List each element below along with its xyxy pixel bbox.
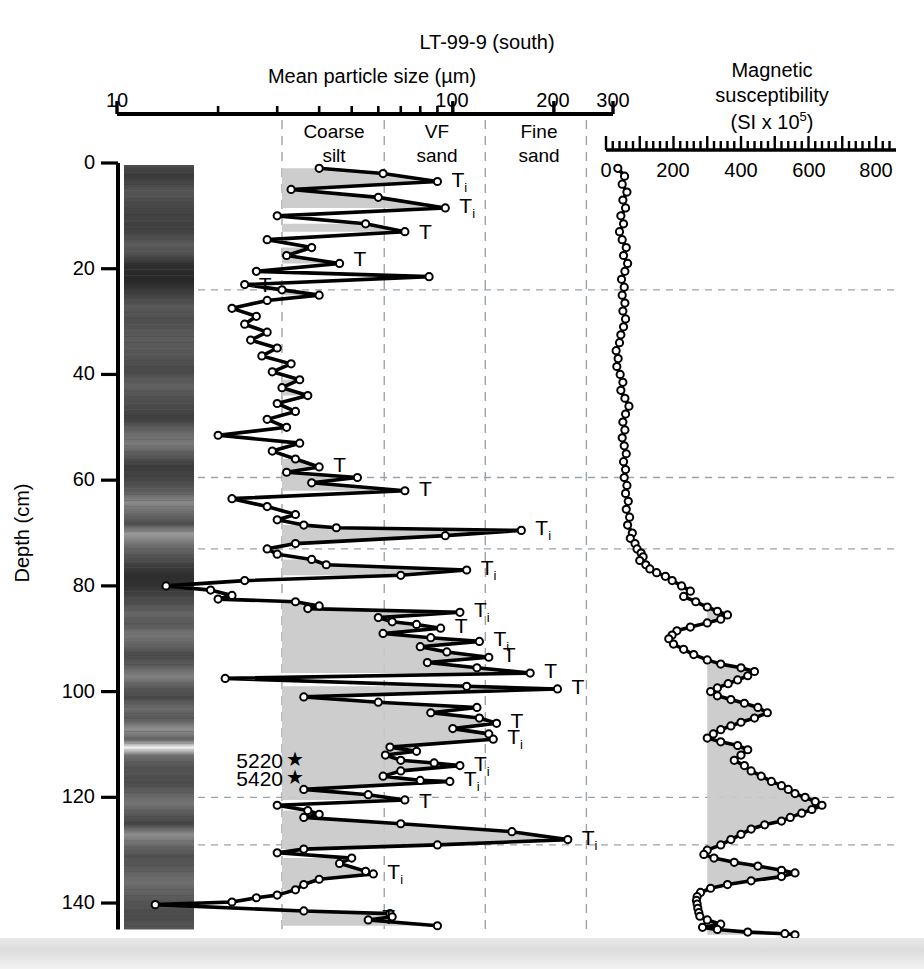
ms-data-point bbox=[758, 773, 765, 780]
ms-data-point bbox=[619, 307, 626, 314]
ms-data-point bbox=[690, 651, 697, 658]
ms-data-point bbox=[622, 410, 629, 417]
event-marker-letter: T bbox=[535, 516, 548, 539]
particle-size-data-point bbox=[413, 748, 420, 755]
ms-data-point bbox=[622, 204, 629, 211]
ms-data-point bbox=[621, 474, 628, 481]
depth-tick-label-140: 140 bbox=[62, 892, 95, 912]
particle-size-data-point bbox=[283, 252, 290, 259]
depth-tick-label-80: 80 bbox=[73, 575, 95, 595]
ms-axis-units: (SI x 105) bbox=[731, 110, 814, 132]
ms-data-point bbox=[724, 881, 731, 888]
ms-data-point bbox=[737, 751, 744, 758]
particle-size-data-point bbox=[554, 685, 561, 692]
ms-data-point bbox=[717, 738, 724, 745]
depth-tick-label-120: 120 bbox=[62, 786, 95, 806]
ms-data-point bbox=[653, 569, 660, 576]
particle-size-data-point bbox=[473, 664, 480, 671]
particle-size-data-point bbox=[424, 659, 431, 666]
ms-data-point bbox=[700, 851, 707, 858]
particle-size-data-point bbox=[456, 762, 463, 769]
particle-size-data-point bbox=[214, 432, 221, 439]
ms-data-point bbox=[623, 482, 630, 489]
ps-tick-label-100: 100 bbox=[435, 90, 468, 110]
ms-data-point bbox=[802, 794, 809, 801]
plot-svg bbox=[0, 0, 924, 969]
ms-data-point bbox=[624, 260, 631, 267]
ms-data-point bbox=[669, 577, 676, 584]
event-marker-Ti: Ti bbox=[535, 517, 551, 542]
particle-size-data-point bbox=[417, 643, 424, 650]
ms-data-point bbox=[622, 315, 629, 322]
ms-data-point bbox=[615, 355, 622, 362]
ms-data-point bbox=[741, 700, 748, 707]
ps-shaded-area bbox=[282, 811, 568, 850]
particle-size-data-point bbox=[300, 693, 307, 700]
ms-data-point bbox=[731, 859, 738, 866]
particle-size-data-point bbox=[375, 614, 382, 621]
particle-size-data-point bbox=[382, 751, 389, 758]
event-marker-letter: T bbox=[259, 273, 272, 296]
particle-size-data-point bbox=[316, 876, 323, 883]
particle-size-data-point bbox=[228, 495, 235, 502]
particle-size-data-point bbox=[274, 849, 281, 856]
particle-size-data-point bbox=[379, 630, 386, 637]
ms-data-point bbox=[622, 490, 629, 497]
ms-data-point bbox=[734, 676, 741, 683]
particle-size-data-point bbox=[323, 561, 330, 568]
particle-size-data-point bbox=[247, 336, 254, 343]
event-marker-letter: T bbox=[382, 905, 395, 928]
ms-data-point bbox=[621, 426, 628, 433]
event-marker-letter: T bbox=[474, 598, 487, 621]
radiocarbon-date-star-icon: ★ bbox=[286, 767, 304, 787]
depth-tick-label-100: 100 bbox=[62, 681, 95, 701]
depth-tick-label-0: 0 bbox=[84, 152, 95, 172]
particle-size-data-point bbox=[434, 841, 441, 848]
ms-data-point bbox=[687, 624, 694, 631]
ms-data-point bbox=[621, 442, 628, 449]
event-marker-Ti: Ti bbox=[481, 557, 497, 582]
ms-data-point bbox=[621, 173, 628, 180]
particle-size-data-point bbox=[300, 907, 307, 914]
ms-data-point bbox=[619, 379, 626, 386]
particle-size-data-point bbox=[463, 566, 470, 573]
event-marker-subscript: i bbox=[487, 764, 490, 779]
ms-data-point bbox=[680, 593, 687, 600]
event-marker-T: T bbox=[259, 274, 272, 295]
particle-size-data-point bbox=[375, 194, 382, 201]
particle-size-data-point bbox=[283, 469, 290, 476]
ms-data-point bbox=[623, 188, 630, 195]
ms-data-point bbox=[744, 746, 751, 753]
event-marker-Ti: Ti bbox=[387, 861, 403, 886]
ms-data-point bbox=[704, 656, 711, 663]
ps-tick-label-200: 200 bbox=[536, 90, 569, 110]
event-marker-T: T bbox=[354, 248, 367, 269]
ms-data-point bbox=[696, 913, 703, 920]
particle-size-data-point bbox=[425, 273, 432, 280]
particle-size-data-point bbox=[241, 321, 248, 328]
ms-data-point bbox=[680, 646, 687, 653]
ms-data-point bbox=[619, 236, 626, 243]
particle-size-data-point bbox=[370, 870, 377, 877]
particle-size-data-point bbox=[365, 791, 372, 798]
ms-data-point bbox=[704, 603, 711, 610]
grain-class-fine-sand-line2: sand bbox=[518, 146, 559, 165]
particle-size-data-point bbox=[296, 440, 303, 447]
particle-size-data-point bbox=[222, 675, 229, 682]
particle-size-data-point bbox=[413, 621, 420, 628]
core-photograph bbox=[124, 165, 194, 929]
particle-size-data-point bbox=[427, 634, 434, 641]
particle-size-data-point bbox=[476, 638, 483, 645]
event-marker-letter: T bbox=[354, 247, 367, 270]
particle-size-data-point bbox=[300, 521, 307, 528]
particle-size-data-point bbox=[278, 384, 285, 391]
ms-data-point bbox=[617, 212, 624, 219]
grain-class-vf-sand-line2: sand bbox=[416, 146, 457, 165]
particle-size-data-point bbox=[336, 260, 343, 267]
particle-size-data-point bbox=[214, 595, 221, 602]
particle-size-data-point bbox=[152, 901, 159, 908]
particle-size-data-point bbox=[304, 392, 311, 399]
grain-class-vf-sand-line1: VF bbox=[425, 122, 449, 141]
particle-size-data-point bbox=[292, 540, 299, 547]
event-marker-letter: T bbox=[419, 789, 432, 812]
